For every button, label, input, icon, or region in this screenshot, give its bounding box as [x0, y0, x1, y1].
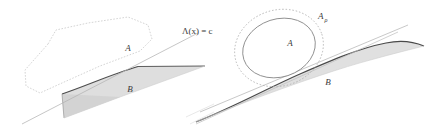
- figure-container: A B Λ(x) = c A: [0, 0, 430, 132]
- left-panel-faint-line-1: [186, 104, 214, 117]
- left-region-b-shape-lower: [62, 94, 120, 118]
- left-panel-group: A B Λ(x) = c: [22, 17, 214, 124]
- right-set-a-label: A: [286, 38, 293, 48]
- right-neighborhood-label-base: A: [317, 11, 324, 21]
- diagram-canvas: A B Λ(x) = c A: [0, 0, 430, 132]
- right-neighborhood-label-subscript: ρ: [324, 16, 328, 23]
- left-region-b-top-edge: [138, 66, 205, 67]
- left-set-b-label: B: [127, 84, 133, 94]
- right-neighborhood-label-group: A ρ: [317, 11, 328, 23]
- right-panel-group: A B A ρ: [196, 0, 424, 124]
- separating-line-equation-label: Λ(x) = c: [182, 26, 213, 36]
- right-set-b-label: B: [325, 77, 331, 87]
- left-set-a-label: A: [124, 43, 131, 53]
